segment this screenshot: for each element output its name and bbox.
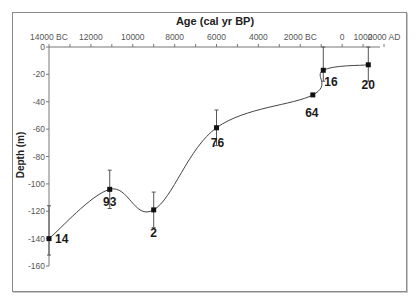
y-tick-label: -60 (33, 124, 46, 134)
x-tick-label: 2000 BC (284, 32, 317, 42)
data-point-marker (214, 125, 219, 130)
y-tick-label: -40 (33, 97, 46, 107)
data-point-label: 14 (55, 232, 69, 246)
data-point-label: 16 (324, 75, 338, 89)
data-point-label: 20 (362, 78, 376, 92)
data-point-label: 76 (211, 136, 225, 150)
x-tick-label: 14000 BC (30, 32, 68, 42)
y-tick-label: 0 (40, 42, 45, 52)
y-axis-label: Depth (m) (15, 132, 26, 179)
data-point-marker (321, 68, 326, 73)
y-tick-label: -20 (33, 69, 46, 79)
x-tick-label: 12000 (79, 32, 103, 42)
data-point-marker (366, 62, 371, 67)
series-line (49, 65, 368, 239)
data-point-marker (310, 92, 315, 97)
y-tick-label: -100 (28, 179, 45, 189)
y-axis: 0-20-40-60-80-100-120-140-160 (28, 42, 49, 271)
y-tick-label: -80 (33, 152, 46, 162)
x-tick-label: 8000 (165, 32, 184, 42)
sea-level-chart: Age (cal yr BP) 14000 BC1200010000800060… (0, 0, 418, 305)
x-tick-label: 6000 (207, 32, 226, 42)
x-axis: 14000 BC12000100008000600040002000 BC010… (30, 32, 400, 47)
data-series: 1493276641620 (47, 47, 376, 255)
y-tick-label: -140 (28, 234, 45, 244)
data-point-label: 2 (150, 226, 157, 240)
x-tick-label: 4000 (249, 32, 268, 42)
x-tick-label: 10000 (121, 32, 145, 42)
x-tick-label: 0 (340, 32, 345, 42)
data-point-marker (47, 236, 52, 241)
x-tick-label: 2000 AD (368, 32, 401, 42)
data-point-marker (107, 187, 112, 192)
y-tick-label: -160 (28, 261, 45, 271)
data-point-label: 93 (103, 195, 117, 209)
data-point-label: 64 (305, 106, 319, 120)
y-tick-label: -120 (28, 206, 45, 216)
chart-title: Age (cal yr BP) (176, 15, 255, 27)
data-point-marker (151, 207, 156, 212)
